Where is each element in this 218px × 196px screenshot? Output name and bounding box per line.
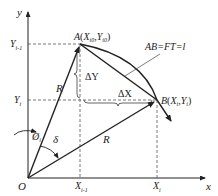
- x-left-tick: Xi-1: [74, 180, 88, 193]
- point-a-label: A(Xi0,Yi0): [73, 31, 110, 43]
- radius-to-a: [28, 47, 79, 178]
- delta-x-brace: [84, 100, 152, 106]
- y-axis-label: y: [16, 6, 22, 18]
- radius-to-b: [28, 102, 154, 178]
- radius-b-label: R: [102, 133, 110, 145]
- x-right-tick: Xi: [152, 180, 161, 193]
- point-b-label: B(Xi,Yi): [161, 95, 191, 107]
- radius-a-label: R: [55, 82, 63, 94]
- delta-y-label: ΔY: [85, 71, 99, 82]
- y-upper-tick: Yi-1: [10, 38, 22, 51]
- origin-label: O: [18, 180, 26, 192]
- delta-x-label: ΔX: [118, 88, 132, 99]
- interpolation-diagram: y x O Yi-1 Yi Xi-1 Xi A(Xi0,Yi0) B(Xi,Yi…: [0, 0, 218, 196]
- x-axis-label: x: [205, 180, 211, 192]
- phi-angle-label: Øi: [31, 131, 41, 143]
- delta-angle-arc: [40, 146, 58, 158]
- chord-leader: [125, 54, 160, 76]
- y-lower-tick: Yi: [14, 94, 22, 107]
- delta-angle-label: δ: [53, 133, 59, 145]
- guide-lines: [28, 44, 157, 178]
- delta-y-brace: [74, 48, 80, 98]
- chord-label: AB=FT=l: [144, 41, 185, 52]
